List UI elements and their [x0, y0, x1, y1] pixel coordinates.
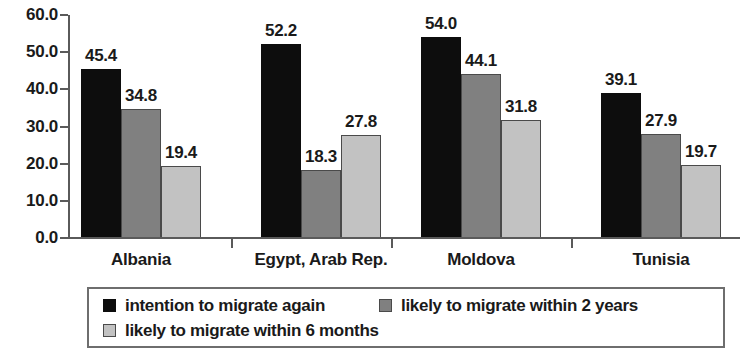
- legend-swatch-icon: [103, 324, 116, 337]
- legend-item[interactable]: likely to migrate within 2 years: [379, 297, 638, 314]
- legend: intention to migrate againlikely to migr…: [87, 287, 725, 348]
- legend-label: intention to migrate again: [125, 297, 325, 314]
- legend-swatch-icon: [379, 299, 392, 312]
- x-axis-tick: [391, 239, 393, 248]
- bar-value-label: 54.0: [417, 15, 465, 32]
- bar-value-label: 31.8: [497, 98, 545, 115]
- bar: [461, 74, 501, 238]
- bar-value-label: 52.2: [257, 22, 305, 39]
- bar-value-label: 19.7: [677, 143, 725, 160]
- bar: [301, 170, 341, 238]
- legend-label: likely to migrate within 2 years: [401, 297, 638, 314]
- bar-value-label: 27.9: [637, 112, 685, 129]
- bar-value-label: 45.4: [77, 47, 125, 64]
- bar: [161, 166, 201, 238]
- legend-item[interactable]: likely to migrate within 6 months: [103, 322, 379, 339]
- bar-value-label: 34.8: [117, 87, 165, 104]
- x-axis-line: [68, 237, 740, 239]
- bar: [81, 69, 121, 238]
- bar-value-label: 19.4: [157, 144, 205, 161]
- bar-chart: 0.010.020.030.040.050.060.0 45.434.819.4…: [0, 0, 756, 353]
- plot-area: 45.434.819.452.218.327.854.044.131.839.1…: [0, 0, 756, 238]
- x-axis-tick: [571, 239, 573, 248]
- bar: [421, 37, 461, 238]
- x-axis-category-label: Tunisia: [551, 250, 756, 270]
- bar: [261, 44, 301, 238]
- legend-swatch-icon: [103, 299, 116, 312]
- legend-label: likely to migrate within 6 months: [125, 322, 379, 339]
- x-axis-tick: [231, 239, 233, 248]
- bar: [501, 120, 541, 238]
- bar-value-label: 27.8: [337, 113, 385, 130]
- bar-value-label: 44.1: [457, 52, 505, 69]
- bar-value-label: 39.1: [597, 71, 645, 88]
- bar-value-label: 18.3: [297, 148, 345, 165]
- bar: [681, 165, 721, 238]
- bar: [341, 135, 381, 238]
- bar: [601, 93, 641, 238]
- legend-item[interactable]: intention to migrate again: [103, 297, 325, 314]
- bar: [641, 134, 681, 238]
- bar: [121, 109, 161, 238]
